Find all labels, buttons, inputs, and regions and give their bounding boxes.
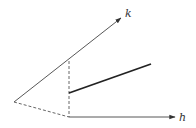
k-axis-line (14, 18, 121, 102)
h-axis-label: h (179, 111, 186, 124)
dashed-base-line (14, 102, 69, 117)
k-axis-label: k (125, 7, 132, 20)
diagram-canvas: k h (0, 0, 196, 128)
thick-segment (69, 64, 151, 93)
